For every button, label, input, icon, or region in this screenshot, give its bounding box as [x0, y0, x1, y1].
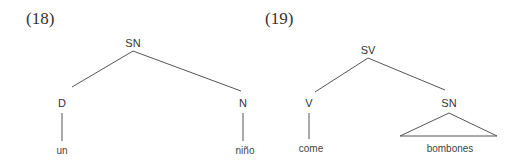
leaf-un: un [56, 145, 67, 156]
node-n: N [239, 97, 247, 109]
tree-19: (19) SV V come SN bombones [265, 9, 497, 154]
edge-sn-d [72, 51, 133, 87]
node-root-sv: SV [361, 44, 376, 56]
edge-sv-v [315, 58, 368, 92]
triangle-sn [400, 113, 497, 136]
node-v: V [305, 97, 313, 109]
leaf-bombones: bombones [427, 143, 474, 154]
node-root-sn: SN [125, 37, 140, 49]
node-sn: SN [441, 97, 456, 109]
example-number: (19) [265, 9, 293, 28]
edge-sv-sn [368, 58, 445, 90]
tree-18: (18) SN D un N niño [26, 9, 255, 156]
edge-sn-n [133, 51, 241, 91]
leaf-nino: niño [236, 145, 255, 156]
syntax-trees-figure: (18) SN D un N niño (19) SV V come SN bo… [0, 0, 525, 167]
node-d: D [58, 97, 66, 109]
example-number: (18) [26, 9, 54, 28]
leaf-come: come [299, 143, 324, 154]
